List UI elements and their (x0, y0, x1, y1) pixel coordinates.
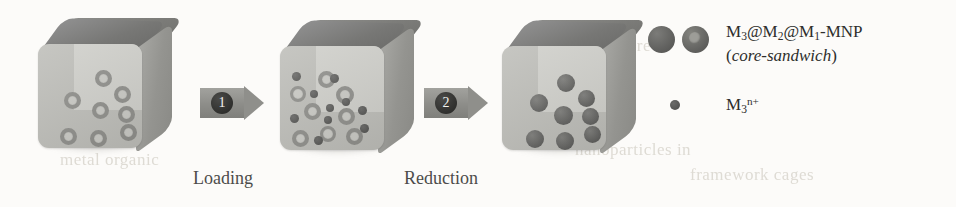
cube-mof-empty (30, 14, 195, 174)
particle-ring (114, 86, 131, 103)
legend-label-core-sandwich: M3@M2@M1-MNP (core-sandwich) (726, 22, 863, 65)
particle-ring (95, 70, 112, 87)
particle-ring (64, 92, 81, 109)
legend-label-metal-ion: M3n+ (726, 92, 759, 119)
solid-circle-icon (648, 26, 675, 53)
particle-dot (290, 114, 299, 123)
particle-solid (554, 106, 573, 125)
particle-dot (292, 72, 301, 81)
particle-solid (556, 132, 574, 150)
arrow-head (244, 86, 264, 120)
particle-solid (582, 108, 599, 125)
legend-row-metal-ion: M3n+ (648, 76, 948, 110)
small-dot-icon (670, 100, 680, 110)
particle-solid (530, 94, 548, 112)
particle-ring (92, 102, 109, 119)
cube-nanoparticles (494, 16, 659, 176)
particle-dot (326, 104, 334, 112)
step-caption-loading: Loading (193, 168, 253, 189)
arrow-step-badge: 2 (435, 92, 457, 114)
legend: M3@M2@M1-MNP (core-sandwich) M3n+ (648, 22, 948, 110)
step-caption-reduction: Reduction (404, 168, 478, 189)
particle-dot (310, 90, 318, 98)
cube-face-front (38, 44, 142, 148)
particle-ring (290, 86, 306, 102)
particle-ring (292, 130, 309, 147)
particle-dot (314, 136, 323, 145)
particle-dot (360, 124, 369, 133)
arrow-step-2: 2 (424, 88, 488, 118)
legend-subtitle-core-sandwich: (core-sandwich) (726, 46, 837, 65)
particle-solid (526, 130, 544, 148)
particle-dot (358, 106, 367, 115)
particle-ring (120, 124, 137, 141)
cube-face-front (502, 46, 606, 150)
particle-ring (304, 103, 321, 120)
legend-formula-core-sandwich: M3@M2@M1-MNP (726, 22, 863, 41)
legend-formula-metal-ion: M3n+ (726, 95, 759, 114)
arrow-step-badge: 1 (211, 92, 233, 114)
particle-dot (330, 74, 339, 83)
arrow-step-1: 1 (200, 88, 264, 118)
cube-mof-loaded (272, 16, 437, 176)
reaction-scheme-figure: the structure ofnanoparticles inmetal or… (0, 0, 956, 207)
particle-dot (342, 98, 350, 106)
arrow-head (468, 86, 488, 120)
cube-face-front (280, 46, 384, 150)
ring-circle-icon (682, 26, 709, 53)
bleed-through-text: framework cages (690, 165, 814, 185)
particle-ring (338, 108, 355, 125)
particle-ring (118, 106, 135, 123)
particle-solid (578, 90, 595, 107)
particle-ring (90, 130, 107, 147)
particle-dot (324, 116, 332, 124)
particle-ring (60, 128, 77, 145)
particle-solid (584, 126, 601, 143)
particle-solid (557, 74, 575, 92)
legend-row-core-sandwich: M3@M2@M1-MNP (core-sandwich) (648, 22, 948, 76)
